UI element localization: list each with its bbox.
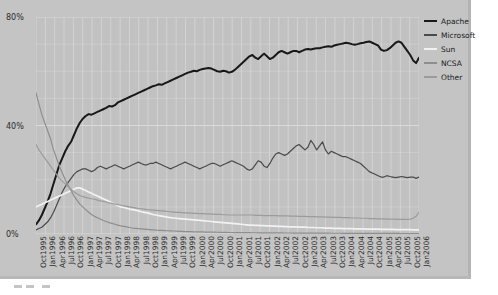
legend-item-other[interactable]: Other (424, 70, 494, 84)
x-axis-tick-label: Oct2004 (375, 236, 384, 268)
x-axis-tick-label: Apr2005 (394, 236, 403, 268)
x-axis-tick-label: Apr1996 (58, 236, 67, 268)
x-axis-tick-label: Jan2001 (235, 236, 244, 267)
legend-swatch-icon (424, 48, 437, 50)
x-axis-tick-label: Apr1999 (170, 236, 179, 268)
legend-swatch-icon (424, 62, 437, 64)
page-artifact (14, 285, 60, 289)
legend-item-microsoft[interactable]: Microsoft (424, 28, 494, 42)
x-axis-tick-label: Oct1995 (39, 236, 48, 268)
legend-swatch-icon (424, 76, 437, 78)
x-axis-tick-label: Jan2006 (422, 236, 431, 267)
x-axis-tick-label: Jul1997 (104, 236, 113, 264)
x-axis-tick-label: Jan1997 (86, 236, 95, 267)
x-axis-tick-label: Jan2002 (273, 236, 282, 267)
y-axis-label-0: 0% (6, 230, 19, 239)
legend-label: Apache (441, 17, 469, 26)
chart-legend: ApacheMicrosoftSunNCSAOther (424, 14, 494, 84)
x-axis-tick-label: Jan1996 (48, 236, 57, 267)
legend-item-apache[interactable]: Apache (424, 14, 494, 28)
legend-swatch-icon (424, 20, 437, 23)
x-axis-tick-label: Oct1998 (151, 236, 160, 268)
x-axis-tick-label: Oct2005 (413, 236, 422, 268)
x-axis-tick-label: Jan2000 (198, 236, 207, 267)
x-axis-tick-label: Jan2005 (385, 236, 394, 267)
legend-item-ncsa[interactable]: NCSA (424, 56, 494, 70)
chart-screenshot: 80% 40% 0% Oct1995Jan1996Apr1996Jul1996O… (0, 0, 498, 295)
x-axis-tick-label: Jul1996 (67, 236, 76, 264)
x-axis-tick-label: Jan1999 (160, 236, 169, 267)
x-axis-tick-label: Oct1997 (114, 236, 123, 268)
x-axis-tick-label: Oct2002 (301, 236, 310, 268)
x-axis-tick-label: Apr1998 (132, 236, 141, 268)
legend-item-sun[interactable]: Sun (424, 42, 494, 56)
line-chart-svg (36, 17, 419, 234)
x-axis-tick-label: Oct1996 (76, 236, 85, 268)
x-axis-tick-label: Jul2002 (291, 236, 300, 264)
legend-label: NCSA (441, 59, 462, 68)
x-axis-tick-label: Oct2003 (338, 236, 347, 268)
x-axis-tick-label: Jul2004 (366, 236, 375, 264)
x-axis-tick-label: Oct1999 (188, 236, 197, 268)
legend-label: Microsoft (441, 31, 475, 40)
x-axis-tick-label: Jul2003 (329, 236, 338, 264)
x-axis-tick-label: Jul2005 (403, 236, 412, 264)
x-axis-tick-label: Oct2000 (226, 236, 235, 268)
x-axis-tick-label: Jul1999 (179, 236, 188, 264)
y-axis-label-80: 80% (6, 13, 24, 22)
x-axis-tick-label: Oct2001 (263, 236, 272, 268)
x-axis-tick-label: Jul1998 (142, 236, 151, 264)
x-axis-tick-label: Apr2001 (245, 236, 254, 268)
x-axis-tick-label: Apr2003 (319, 236, 328, 268)
plot-area (36, 17, 419, 234)
x-axis-tick-label: Apr2002 (282, 236, 291, 268)
x-axis-tick-label: Jul2000 (216, 236, 225, 264)
x-axis-tick-label: Apr1997 (95, 236, 104, 268)
x-axis-tick-label: Jan1998 (123, 236, 132, 267)
x-axis-tick-labels: Oct1995Jan1996Apr1996Jul1996Oct1996Jan19… (36, 236, 419, 278)
legend-label: Sun (441, 45, 455, 54)
y-axis-label-40: 40% (6, 122, 24, 131)
x-axis-tick-label: Apr2004 (357, 236, 366, 268)
x-axis-tick-label: Jan2003 (310, 236, 319, 267)
x-axis-tick-label: Jul2001 (254, 236, 263, 264)
x-axis-tick-label: Jan2004 (347, 236, 356, 267)
x-axis-tick-label: Apr2000 (207, 236, 216, 268)
legend-swatch-icon (424, 34, 437, 36)
legend-label: Other (441, 73, 462, 82)
